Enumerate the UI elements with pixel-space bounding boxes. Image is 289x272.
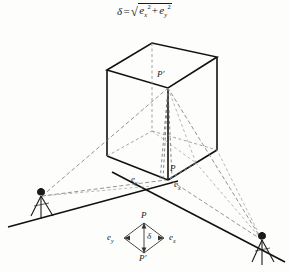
sight-lines-left	[42, 88, 168, 196]
left-tripod-leg-3	[41, 196, 53, 216]
right-instrument-scope	[261, 232, 264, 236]
theodolite-tripod-right	[252, 232, 274, 265]
label-inset-ex: ex	[169, 233, 176, 244]
box-top-face	[107, 43, 217, 88]
left-instrument-scope	[40, 188, 43, 192]
sight-left-to-pprime	[42, 88, 168, 196]
label-p-prime-top: P'	[157, 70, 164, 79]
label-inset-delta: δ	[147, 232, 151, 241]
box-hidden-bottom-back-right	[152, 131, 217, 150]
base-helper-1	[152, 131, 196, 163]
survey-error-figure: δ=√ex2+ey2	[0, 0, 289, 272]
label-inset-ey: ey	[107, 233, 114, 244]
sight-lines-right	[168, 88, 262, 240]
label-inset-p-prime: P'	[139, 254, 146, 263]
ground-line-left	[8, 181, 178, 227]
label-p-main: P	[170, 164, 176, 173]
label-inset-p: P	[141, 211, 147, 220]
sight-left-lower	[42, 186, 152, 196]
theodolite-tripod-left	[31, 188, 53, 219]
label-ex-main: ex	[174, 180, 181, 191]
label-ey-main: ey	[131, 175, 138, 186]
left-tripod-leg-1	[31, 196, 41, 216]
sight-left-to-p	[42, 180, 166, 196]
error-rhombus-inset	[124, 223, 164, 253]
base-helper-3	[168, 88, 196, 163]
sight-right-to-pprime	[168, 88, 262, 240]
sight-right-edge	[217, 150, 262, 240]
diagram-canvas	[0, 0, 289, 272]
right-tripod-leg-1	[252, 240, 262, 262]
